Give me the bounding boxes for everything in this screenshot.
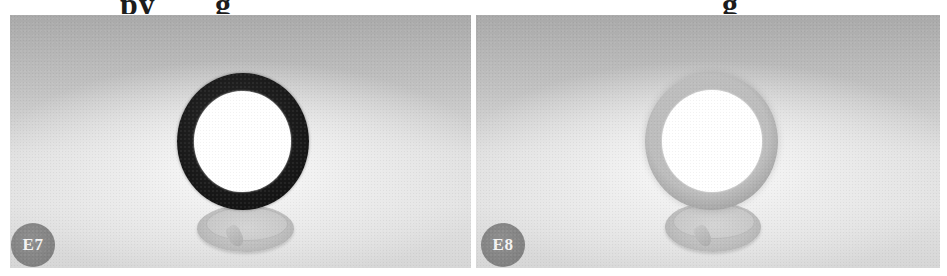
panel-label-badge: E7 xyxy=(11,223,55,267)
caption-fragment: g xyxy=(722,0,739,14)
ring-hole xyxy=(662,90,762,192)
pedestal-base-top xyxy=(206,207,288,241)
render-panel-e7: E7 xyxy=(10,15,471,268)
ring-hole xyxy=(194,91,291,192)
caption-fragment: g xyxy=(215,0,232,14)
grey-ring xyxy=(645,73,778,210)
cropped-caption: py g g xyxy=(0,0,947,14)
render-panel-e8: E8 xyxy=(476,15,940,268)
dark-ring xyxy=(177,73,309,210)
caption-fragment: py xyxy=(120,0,156,14)
panel-label-badge: E8 xyxy=(481,223,525,267)
